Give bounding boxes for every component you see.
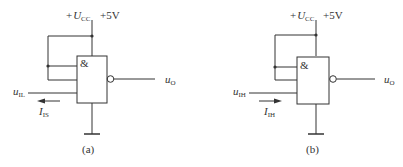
circuit-a-output-label: uO <box>165 74 176 87</box>
circuit-b-input-label: uIH <box>233 86 246 99</box>
circuit-b-supply-value: +5V <box>323 10 343 21</box>
circuit-a-current-arrow <box>37 99 60 104</box>
circuit-b-and-gate-symbol: & <box>300 60 309 71</box>
circuit-a-input-label: uIL <box>13 86 25 99</box>
circuit-a-supply-value: +5V <box>100 10 120 21</box>
circuit-a-and-gate-symbol: & <box>80 58 89 69</box>
circuit-diagram <box>0 0 403 167</box>
circuit-b-current-arrow <box>259 99 282 104</box>
circuit-b-nodes <box>273 33 317 68</box>
circuit-b-output-label: uO <box>384 74 395 87</box>
circuit-a-current-label: IIS <box>39 106 49 119</box>
circuit-a-caption: (a) <box>82 144 94 155</box>
circuit-b-supply-label: + UCC <box>290 10 314 23</box>
circuit-b-current-label: IIH <box>264 106 275 119</box>
circuit-a-supply-label: + UCC <box>66 10 90 23</box>
circuit-b-caption: (b) <box>306 144 319 155</box>
